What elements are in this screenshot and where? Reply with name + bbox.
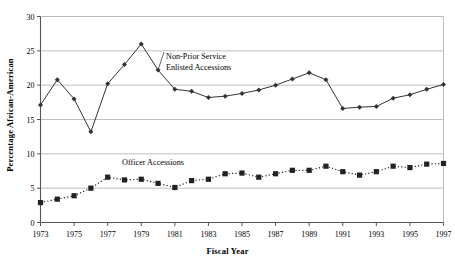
- data-point-marker: [424, 162, 429, 167]
- data-point-marker: [189, 89, 194, 94]
- y-axis-title: Percentage African-American: [5, 58, 15, 172]
- series-line: [41, 44, 444, 132]
- data-point-marker: [88, 186, 93, 191]
- data-point-marker: [256, 87, 261, 92]
- y-tick-label: 10: [27, 150, 35, 159]
- data-point-marker: [239, 170, 244, 175]
- x-tick-label: 1997: [436, 230, 452, 239]
- data-point-marker: [340, 169, 345, 174]
- data-point-marker: [55, 197, 60, 202]
- data-point-marker: [206, 95, 211, 100]
- data-point-marker: [155, 181, 160, 186]
- x-tick-label: 1975: [66, 230, 82, 239]
- series-officer-accessions: [38, 161, 446, 205]
- data-point-marker: [307, 168, 312, 173]
- x-tick-label: 1983: [200, 230, 216, 239]
- data-point-marker: [374, 169, 379, 174]
- y-tick-label: 30: [27, 13, 35, 22]
- data-point-marker: [206, 177, 211, 182]
- data-point-marker: [424, 87, 429, 92]
- data-point-marker: [357, 105, 362, 110]
- chart-figure: 051015202530 197319751977197919811983198…: [0, 0, 455, 270]
- data-point-marker: [88, 129, 93, 134]
- x-tick-label: 1993: [368, 230, 384, 239]
- data-point-marker: [256, 175, 261, 180]
- data-point-marker: [122, 177, 127, 182]
- x-axis-title: Fiscal Year: [0, 246, 455, 256]
- data-point-marker: [38, 200, 43, 205]
- annotation-leader-lines: [158, 52, 164, 70]
- data-point-marker: [223, 94, 228, 99]
- x-tick-label: 1995: [402, 230, 418, 239]
- data-point-marker: [307, 70, 312, 75]
- data-point-marker: [407, 92, 412, 97]
- x-tick-label: 1973: [33, 230, 49, 239]
- data-point-marker: [407, 165, 412, 170]
- data-point-marker: [323, 164, 328, 169]
- series-label-enlisted: Non-Prior Service Enlisted Accessions: [166, 52, 231, 73]
- line-chart-plot: 051015202530 197319751977197919811983198…: [0, 0, 455, 270]
- x-tick-label: 1989: [301, 230, 317, 239]
- x-tick-label: 1977: [100, 230, 116, 239]
- series-label-officer-line1: Officer Accessions: [122, 158, 184, 169]
- x-tick-label: 1985: [234, 230, 250, 239]
- data-point-marker: [374, 104, 379, 109]
- series-label-enlisted-line1: Non-Prior Service: [166, 52, 231, 63]
- x-tick-label: 1987: [268, 230, 284, 239]
- y-tick-label: 15: [27, 116, 35, 125]
- x-tick-label: 1979: [133, 230, 149, 239]
- data-point-marker: [441, 82, 446, 87]
- data-point-marker: [71, 193, 76, 198]
- data-point-marker: [172, 185, 177, 190]
- series-label-officer: Officer Accessions: [122, 158, 184, 169]
- y-axis-title-wrap: Percentage African-American: [0, 0, 20, 230]
- data-point-marker: [273, 83, 278, 88]
- y-tick-label: 20: [27, 81, 35, 90]
- series-enlisted-accessions: [38, 41, 446, 134]
- data-point-marker: [391, 164, 396, 169]
- series-label-enlisted-line2: Enlisted Accessions: [166, 63, 231, 74]
- gridlines-group: [41, 17, 444, 223]
- data-point-marker: [273, 171, 278, 176]
- x-tick-label: 1981: [167, 230, 183, 239]
- series-line: [41, 163, 444, 202]
- data-point-marker: [340, 106, 345, 111]
- y-tick-label: 25: [27, 47, 35, 56]
- data-point-marker: [357, 173, 362, 178]
- data-point-marker: [290, 76, 295, 81]
- data-point-marker: [223, 171, 228, 176]
- x-tick-labels: 1973197519771979198119831985198719891991…: [33, 230, 452, 239]
- data-point-marker: [139, 177, 144, 182]
- data-point-marker: [290, 168, 295, 173]
- data-point-marker: [323, 77, 328, 82]
- y-tick-label: 5: [31, 184, 35, 193]
- x-tick-label: 1991: [335, 230, 351, 239]
- data-point-marker: [240, 91, 245, 96]
- data-point-marker: [441, 161, 446, 166]
- y-tick-labels: 051015202530: [27, 13, 41, 228]
- y-tick-label: 0: [31, 219, 35, 228]
- data-point-marker: [105, 175, 110, 180]
- data-point-marker: [391, 96, 396, 101]
- data-point-marker: [189, 178, 194, 183]
